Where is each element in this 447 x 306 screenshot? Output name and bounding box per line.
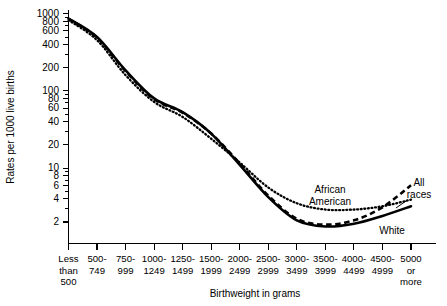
y-tick-label: 600 [42,25,59,36]
x-axis-tick-labels: Lessthan500500-749750-9991000-12491250-1… [58,253,422,287]
y-axis-title: Rates per 1000 live births [5,70,16,183]
y-tick-label: 60 [48,102,60,113]
x-tick-label: 2000-2499 [227,253,252,276]
x-tick-label: 5000ormore [400,253,422,287]
x-axis-ticks [69,244,412,251]
y-tick-label: 4 [53,193,59,204]
x-tick-label: 1500-1999 [199,253,224,276]
x-tick-label: 4500-4999 [370,253,395,276]
series-line-all-races [69,19,412,225]
series-line-african-american [69,20,412,210]
x-tick-label: 2500-2999 [256,253,281,276]
x-tick-label: Lessthan500 [58,253,78,287]
x-tick-label: 500-749 [87,253,106,276]
x-tick-label: 3500-3999 [313,253,338,276]
y-axis-tick-labels: 100080060040020010080604020108642 [37,8,60,227]
chart-svg: 100080060040020010080604020108642 Lessth… [0,0,447,306]
series-line-white [69,18,412,226]
y-tick-label: 40 [48,116,60,127]
y-tick-label: 6 [53,180,59,191]
chart-container: 100080060040020010080604020108642 Lessth… [0,0,447,306]
series-label-white: White [379,225,405,236]
y-tick-label: 400 [42,39,59,50]
x-axis-title: Birthweight in grams [210,288,301,299]
series-label-african-american: AfricanAmerican [309,184,351,207]
x-tick-label: 4000-4499 [342,253,367,276]
x-tick-label: 1000-1249 [142,253,167,276]
x-tick-label: 1250-1499 [170,253,195,276]
y-tick-label: 20 [48,139,60,150]
y-axis-ticks [63,14,69,222]
chart-series-group [69,18,412,226]
y-tick-label: 200 [42,62,59,73]
x-tick-label: 3000-3499 [285,253,310,276]
series-label-all-races: Allraces [407,177,431,200]
y-tick-label: 2 [53,216,59,227]
x-tick-label: 750-999 [116,253,135,276]
